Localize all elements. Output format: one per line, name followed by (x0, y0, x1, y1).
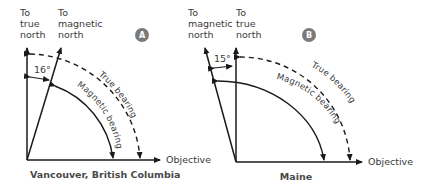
caption-a: Vancouver, British Columbia (30, 169, 180, 180)
caption-b: Maine (280, 171, 312, 182)
declination-label-a: 16° (34, 64, 51, 75)
badge-b-label: B (306, 31, 312, 40)
badge-a-label: A (139, 31, 146, 40)
diagram-a: To true north To magnetic north A Object… (19, 7, 211, 180)
magnetic-north-arrow-b (205, 48, 236, 162)
magnetic-north-label-a: To magnetic north (57, 7, 106, 40)
bearing-diagrams: To true north To magnetic north A Object… (0, 0, 432, 188)
diagram-b: To magnetic north To true north B Object… (187, 7, 413, 182)
objective-label-a: Objective (166, 154, 211, 165)
declination-label-b: 15° (214, 53, 231, 64)
magnetic-north-label-b: To magnetic north (187, 7, 236, 40)
true-north-label-b: To true north (235, 7, 262, 40)
objective-label-b: Objective (368, 156, 413, 167)
declination-arrow-a (30, 77, 49, 80)
declination-arrow-b (214, 66, 232, 68)
true-north-label-a: To true north (19, 7, 46, 40)
magnetic-bearing-arc-a (55, 86, 113, 158)
